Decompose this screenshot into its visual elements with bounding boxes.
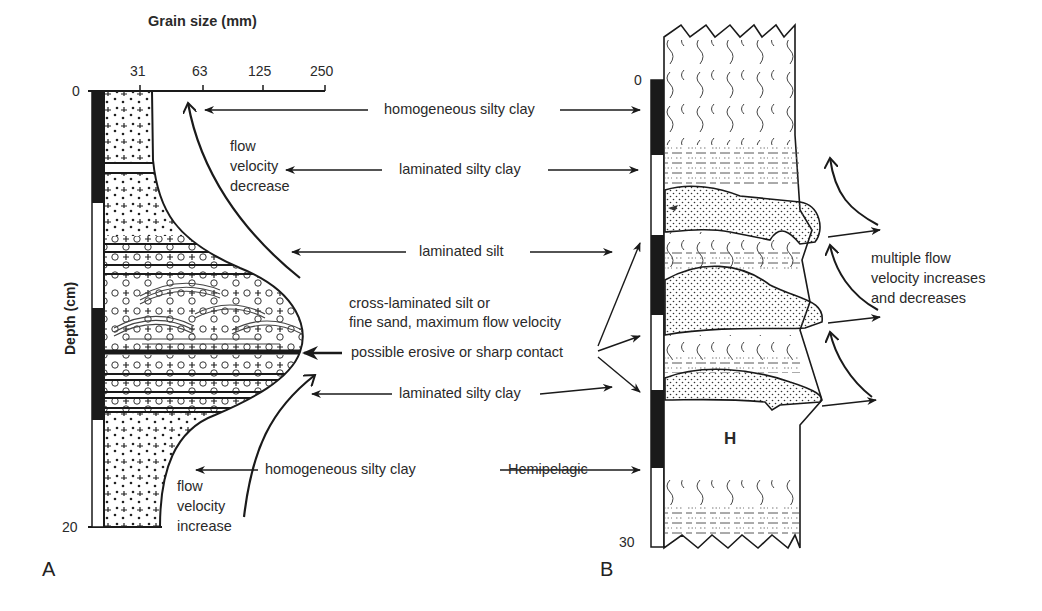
flow-decrease-line3: decrease (230, 177, 290, 196)
y-axis-title: Depth (cm) (62, 282, 78, 355)
x-tick-31: 31 (130, 63, 146, 79)
panel-b-log (651, 25, 880, 548)
label-laminated-silty-clay-top: laminated silty clay (399, 160, 521, 179)
flow-increase-line2: velocity (177, 497, 225, 516)
panel-label-a: A (42, 558, 55, 581)
flow-increase-line3: increase (177, 517, 232, 536)
hemipelagic-marker: H (724, 429, 736, 448)
multiple-flow-line2: velocity increases (871, 269, 985, 288)
flow-decrease-line1: flow (230, 137, 256, 156)
label-laminated-silty-clay-bottom: laminated silty clay (399, 384, 521, 403)
label-cross-laminated-2: fine sand, maximum flow velocity (349, 313, 561, 332)
label-hemipelagic: Hemipelagic (508, 460, 588, 479)
label-cross-laminated-1: cross-laminated silt or (349, 294, 490, 313)
y-tick-20-a: 20 (62, 519, 78, 535)
label-homogeneous-top: homogeneous silty clay (384, 100, 535, 119)
y-tick-0-b: 0 (634, 72, 642, 88)
label-homogeneous-bottom: homogeneous silty clay (265, 460, 416, 479)
flow-increase-line1: flow (177, 477, 203, 496)
y-tick-0-a: 0 (72, 83, 80, 99)
x-axis-title: Grain size (mm) (148, 12, 257, 31)
x-tick-63: 63 (192, 63, 208, 79)
label-laminated-silt: laminated silt (419, 242, 504, 261)
x-tick-250: 250 (310, 63, 333, 79)
flow-decrease-line2: velocity (230, 157, 278, 176)
label-erosive-contact: possible erosive or sharp contact (351, 343, 563, 362)
multiple-flow-line1: multiple flow (871, 249, 951, 268)
multiple-flow-line3: and decreases (871, 289, 966, 308)
panel-label-b: B (600, 558, 613, 581)
x-tick-125: 125 (248, 63, 271, 79)
y-tick-30-b: 30 (619, 534, 635, 550)
